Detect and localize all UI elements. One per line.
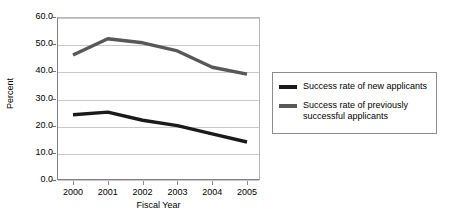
x-tick-mark xyxy=(212,181,213,185)
y-tick-mark xyxy=(51,44,56,45)
x-tick-mark xyxy=(108,181,109,185)
y-tick-mark xyxy=(51,126,56,127)
x-axis-title: Fiscal Year xyxy=(57,200,260,211)
x-tick-mark xyxy=(177,181,178,185)
y-tick-mark xyxy=(51,153,56,154)
x-tick-label: 2005 xyxy=(227,187,267,197)
y-axis-title: Percent xyxy=(5,62,16,126)
y-tick-label: 0.0 xyxy=(7,175,53,184)
x-tick-mark xyxy=(73,181,74,185)
y-tick-mark xyxy=(51,99,56,100)
legend: Success rate of new applicants Success r… xyxy=(272,72,437,134)
y-tick-label: 60.0 xyxy=(7,12,53,21)
y-tick-mark xyxy=(51,17,56,18)
y-tick-mark xyxy=(51,180,56,181)
series-line-previously-successful xyxy=(73,39,247,74)
y-tick-label: 10.0 xyxy=(7,148,53,157)
legend-entry-previously-successful: Success rate of previously successful ap… xyxy=(279,100,433,122)
line-chart-figure: 0.010.020.030.040.050.060.0 Percent 2000… xyxy=(0,0,453,222)
legend-label: Success rate of previously successful ap… xyxy=(303,100,433,122)
x-tick-mark xyxy=(247,181,248,185)
y-tick-label: 50.0 xyxy=(7,39,53,48)
y-tick-mark xyxy=(51,71,56,72)
x-tick-mark xyxy=(143,181,144,185)
legend-entry-new-applicants: Success rate of new applicants xyxy=(279,81,427,92)
legend-label: Success rate of new applicants xyxy=(303,81,427,92)
data-series-layer xyxy=(57,17,260,180)
legend-swatch-icon xyxy=(279,85,297,89)
series-line-new-applicants xyxy=(73,112,247,142)
legend-swatch-icon xyxy=(279,104,297,108)
